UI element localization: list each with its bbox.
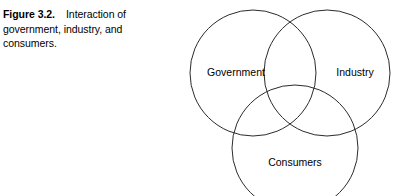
caption-text-line-1: Interaction of: [66, 8, 126, 20]
venn-label-industry: Industry: [336, 66, 374, 78]
caption-line-3: consumers.: [3, 36, 153, 51]
venn-label-government: Government: [207, 66, 265, 78]
figure-container: Figure 3.2.Interaction of government, in…: [0, 0, 404, 196]
venn-label-consumers: Consumers: [268, 156, 322, 168]
venn-circle-consumers: [232, 85, 358, 196]
caption-line-2: government, industry, and: [3, 22, 153, 37]
venn-diagram-svg: Government Industry Consumers: [180, 0, 404, 196]
caption-line-1: Figure 3.2.Interaction of: [3, 7, 153, 22]
figure-caption: Figure 3.2.Interaction of government, in…: [3, 7, 153, 51]
venn-diagram: Government Industry Consumers: [180, 0, 404, 196]
figure-number-label: Figure 3.2.: [3, 8, 55, 20]
